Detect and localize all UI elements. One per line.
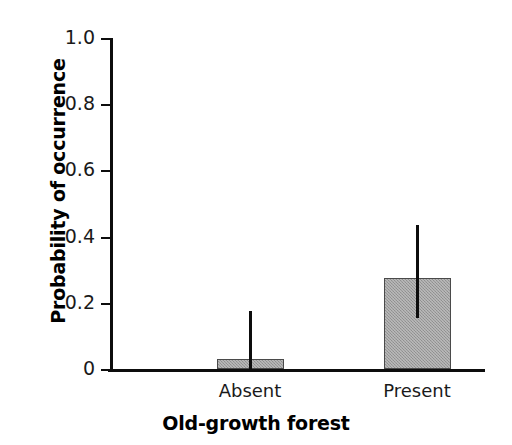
y-tick-label-4: 0.8: [65, 93, 95, 113]
x-axis-line: [108, 369, 485, 372]
y-tick-label-5: 1.0: [65, 27, 95, 47]
y-tick-label-0: 0: [83, 358, 95, 378]
y-axis-line: [110, 38, 113, 369]
plot-area: 00.20.40.60.81.0 AbsentPresent: [110, 38, 485, 369]
y-tick-label-3: 0.6: [65, 159, 95, 179]
y-tick-2: 0.4: [101, 237, 110, 239]
y-tick-label-1: 0.2: [65, 292, 95, 312]
y-tick-0: 0: [101, 369, 110, 371]
error-bar-present: [416, 225, 419, 318]
y-tick-label-2: 0.4: [65, 226, 95, 246]
x-tick-label-present: Present: [383, 380, 451, 402]
y-tick-3: 0.6: [101, 170, 110, 172]
y-tick-1: 0.2: [101, 303, 110, 305]
error-bar-absent: [249, 311, 252, 369]
y-tick-5: 1.0: [101, 38, 110, 40]
y-tick-4: 0.8: [101, 104, 110, 106]
x-tick-label-absent: Absent: [219, 380, 282, 402]
chart-figure: Probability of occurrence 00.20.40.60.81…: [0, 0, 512, 445]
x-axis-title: Old-growth forest: [0, 412, 512, 434]
